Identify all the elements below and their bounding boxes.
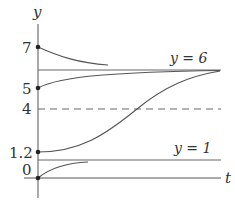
y-axis-label: y — [32, 3, 42, 21]
tick-label-1-2: 1.2 — [9, 144, 33, 162]
tick-label-0: 0 — [22, 161, 32, 179]
curve-from-5 — [38, 71, 220, 89]
curve-from-0 — [38, 162, 88, 178]
tick-label-7: 7 — [22, 39, 32, 57]
initial-point-0 — [36, 176, 41, 181]
initial-point-5 — [36, 86, 41, 91]
equilibrium-label-y1: y = 1 — [173, 140, 211, 156]
tick-label-5: 5 — [22, 80, 32, 98]
solution-curves-chart: y 7 5 4 1.2 0 y = 6 y = 1 t — [0, 0, 235, 204]
initial-point-1-2 — [36, 150, 41, 155]
t-axis-label: t — [225, 169, 232, 187]
curve-from-7 — [38, 47, 108, 65]
tick-label-4: 4 — [22, 100, 32, 118]
equilibrium-label-y6: y = 6 — [169, 50, 208, 66]
initial-point-7 — [36, 45, 41, 50]
